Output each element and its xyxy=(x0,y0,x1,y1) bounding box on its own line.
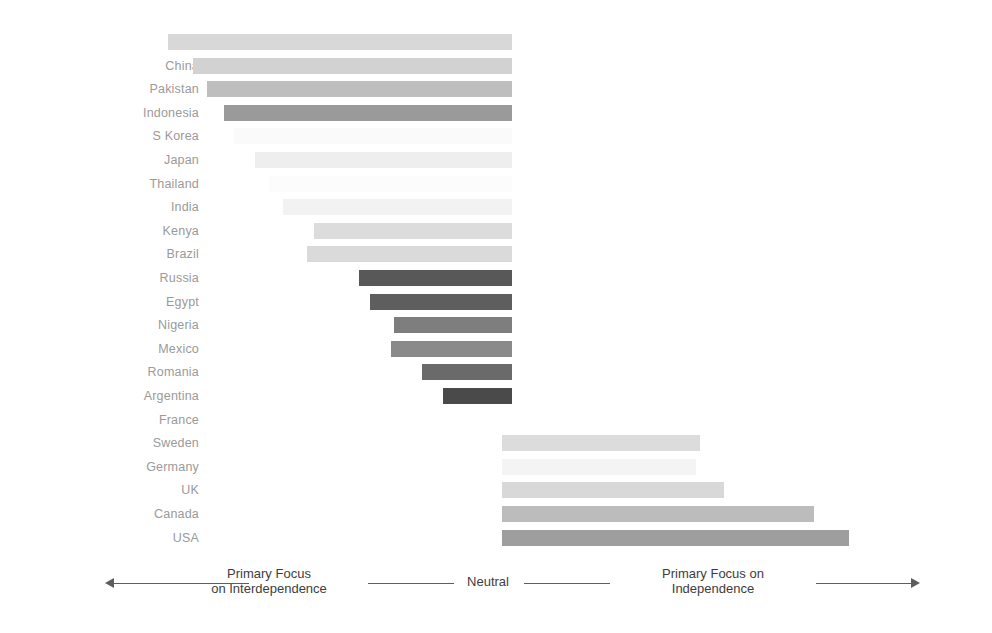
category-label-usa: USA xyxy=(39,526,199,550)
category-label-china: China xyxy=(39,54,199,78)
bar-china xyxy=(193,58,512,74)
bar-argentina xyxy=(443,388,512,404)
bar-row: Canada xyxy=(0,502,992,526)
bar-pakistan xyxy=(207,81,512,97)
category-label-kenya: Kenya xyxy=(39,219,199,243)
category-label-indonesia: Indonesia xyxy=(39,101,199,125)
axis-label-neutral: Neutral xyxy=(456,574,520,589)
bar-row: Argentina xyxy=(0,384,992,408)
bar-mexico xyxy=(391,341,512,357)
category-label-india: India xyxy=(39,195,199,219)
category-label-sweden: Sweden xyxy=(39,431,199,455)
bar-row: Germany xyxy=(0,455,992,479)
bar-row: UK xyxy=(0,478,992,502)
category-label-mexico: Mexico xyxy=(39,337,199,361)
bar-row: Sweden xyxy=(0,431,992,455)
bar-row: Brazil xyxy=(0,242,992,266)
category-label-canada: Canada xyxy=(39,502,199,526)
bar-row: Japan xyxy=(0,148,992,172)
right-arrow-head xyxy=(911,578,920,588)
bar-row: Kenya xyxy=(0,219,992,243)
bar-row: Nigeria xyxy=(0,313,992,337)
bar-japan xyxy=(255,152,512,168)
diverging-bar-chart: UAEChinaPakistanIndonesiaS KoreaJapanTha… xyxy=(0,0,992,633)
bar-row: Romania xyxy=(0,360,992,384)
plot-area: UAEChinaPakistanIndonesiaS KoreaJapanTha… xyxy=(0,0,992,560)
category-label-egypt: Egypt xyxy=(39,290,199,314)
axis-annotation: Primary Focus on Interdependence Neutral… xyxy=(0,560,992,633)
bar-uk xyxy=(502,482,724,498)
bar-nigeria xyxy=(394,317,512,333)
bar-germany xyxy=(502,459,696,475)
category-label-germany: Germany xyxy=(39,455,199,479)
bar-row: Pakistan xyxy=(0,77,992,101)
axis-label-interdependence: Primary Focus on Interdependence xyxy=(182,566,356,596)
bar-row: USA xyxy=(0,526,992,550)
bar-uae xyxy=(168,34,512,50)
bar-egypt xyxy=(370,294,512,310)
bar-india xyxy=(283,199,512,215)
category-label-argentina: Argentina xyxy=(39,384,199,408)
category-label-france: France xyxy=(39,408,199,432)
bar-row: UAE xyxy=(0,30,992,54)
category-label-s-korea: S Korea xyxy=(39,124,199,148)
category-label-romania: Romania xyxy=(39,360,199,384)
bar-sweden xyxy=(502,435,700,451)
category-label-uk: UK xyxy=(39,478,199,502)
bar-russia xyxy=(359,270,512,286)
axis-line-mid-right-segment xyxy=(524,583,610,584)
bar-row: India xyxy=(0,195,992,219)
axis-line-right-segment xyxy=(816,583,911,584)
bar-row: China xyxy=(0,54,992,78)
category-label-japan: Japan xyxy=(39,148,199,172)
category-label-russia: Russia xyxy=(39,266,199,290)
bar-row: Egypt xyxy=(0,290,992,314)
bar-usa xyxy=(502,530,849,546)
bar-row: Thailand xyxy=(0,172,992,196)
bar-kenya xyxy=(314,223,512,239)
bar-row: France xyxy=(0,408,992,432)
bar-indonesia xyxy=(224,105,512,121)
bar-romania xyxy=(422,364,512,380)
category-label-nigeria: Nigeria xyxy=(39,313,199,337)
axis-label-independence: Primary Focus on Independence xyxy=(626,566,800,596)
bar-row: S Korea xyxy=(0,124,992,148)
bar-row: Mexico xyxy=(0,337,992,361)
axis-line-mid-left-segment xyxy=(368,583,454,584)
bar-thailand xyxy=(269,176,512,192)
bar-canada xyxy=(502,506,814,522)
bar-row: Indonesia xyxy=(0,101,992,125)
category-label-thailand: Thailand xyxy=(39,172,199,196)
bar-brazil xyxy=(307,246,512,262)
category-label-brazil: Brazil xyxy=(39,242,199,266)
category-label-pakistan: Pakistan xyxy=(39,77,199,101)
bar-row: Russia xyxy=(0,266,992,290)
bar-s-korea xyxy=(234,128,512,144)
